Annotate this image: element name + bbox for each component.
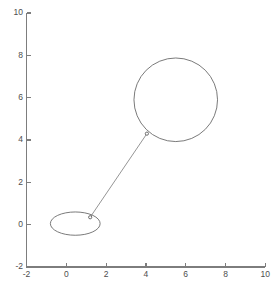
balloon-circle-shape [134, 58, 218, 142]
y-tick-label: 10 [14, 7, 24, 17]
y-tick-label: 6 [18, 92, 23, 102]
y-tick-label: 4 [18, 134, 23, 144]
anchor-marker-upper [145, 132, 148, 135]
y-axis-ticks: -2 0 2 4 6 8 10 [14, 7, 31, 271]
x-tick-label: 4 [144, 269, 149, 279]
x-tick-label: 6 [183, 269, 188, 279]
chart-figure: -2 0 2 4 6 8 10 -2 0 2 4 6 8 10 [0, 0, 278, 286]
y-tick-label: -2 [15, 261, 23, 271]
tether-line [90, 134, 147, 218]
y-tick-label: 2 [18, 177, 23, 187]
anchor-marker-lower [89, 216, 92, 219]
data-shapes-group [50, 58, 217, 235]
x-tick-label: 2 [104, 269, 109, 279]
base-ellipse-shape [50, 212, 100, 235]
axes-group [26, 13, 265, 268]
x-tick-label: 0 [64, 269, 69, 279]
x-tick-label: 8 [223, 269, 228, 279]
x-tick-label: -2 [23, 269, 31, 279]
x-axis-ticks: -2 0 2 4 6 8 10 [23, 263, 271, 280]
x-tick-label: 10 [261, 269, 271, 279]
y-tick-label: 8 [18, 50, 23, 60]
y-tick-label: 0 [18, 219, 23, 229]
chart-canvas: -2 0 2 4 6 8 10 -2 0 2 4 6 8 10 [0, 0, 278, 286]
